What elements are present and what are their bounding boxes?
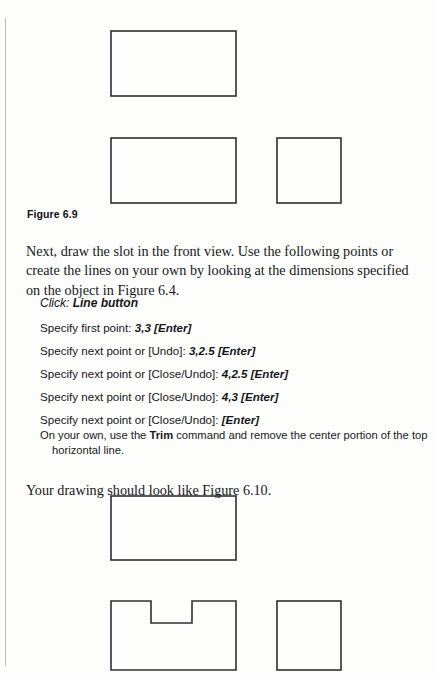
step-value: [Enter]	[222, 413, 259, 426]
click-label: Click:	[40, 296, 69, 310]
figure-6-9-caption: Figure 6.9	[27, 208, 78, 220]
figure-6-9-side-view-square	[277, 138, 341, 203]
step-prompt: Specify first point:	[40, 321, 132, 334]
step-prompt: Specify next point or [Close/Undo]:	[40, 367, 219, 380]
figure-6-9-front-view-rectangle	[111, 138, 236, 203]
note-tail-text: command and remove the center portion of…	[173, 429, 427, 441]
command-step-5: Specify next point or [Close/Undo]: [Ent…	[40, 413, 430, 427]
step-value: 4,3 [Enter]	[222, 390, 279, 403]
command-step-2: Specify next point or [Undo]: 3,2.5 [Ent…	[40, 344, 430, 358]
figure-6-10-drawing	[0, 488, 438, 678]
trim-note: On your own, use the Trim command and re…	[40, 428, 433, 458]
step-value: 3,2.5 [Enter]	[189, 344, 255, 357]
note-lead-text: On your own, use the	[40, 429, 149, 441]
command-step-1: Specify first point: 3,3 [Enter]	[40, 321, 430, 335]
command-step-3: Specify next point or [Close/Undo]: 4,2.…	[40, 367, 430, 381]
step-value: 3,3 [Enter]	[135, 321, 192, 334]
step-prompt: Specify next point or [Undo]:	[40, 344, 186, 357]
click-line-instruction: Click: Line button	[40, 296, 430, 310]
click-target-line-button[interactable]: Line button	[73, 296, 138, 310]
figure-6-10-top-view-rectangle	[111, 496, 236, 560]
note-command-name: Trim	[149, 429, 173, 441]
command-sequence-block: Click: Line button Specify first point: …	[40, 296, 430, 436]
figure-6-9-drawing	[0, 22, 438, 204]
figure-6-10-side-view-square	[277, 601, 341, 670]
step-prompt: Specify next point or [Close/Undo]:	[40, 413, 219, 426]
step-value: 4,2.5 [Enter]	[222, 367, 288, 380]
step-prompt: Specify next point or [Close/Undo]:	[40, 390, 219, 403]
figure-6-10-front-view-slotted-outline	[111, 601, 236, 670]
intro-paragraph: Next, draw the slot in the front view. U…	[26, 242, 425, 300]
figure-6-9-top-view-rectangle	[111, 31, 236, 96]
command-step-4: Specify next point or [Close/Undo]: 4,3 …	[40, 390, 430, 404]
note-continuation-text: horizontal line.	[40, 443, 433, 458]
